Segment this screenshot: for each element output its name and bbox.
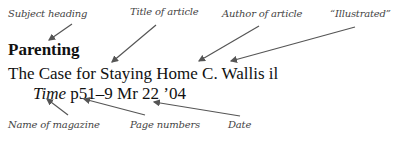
arrow-magazine-icon bbox=[47, 99, 68, 115]
arrow-title-icon bbox=[112, 25, 156, 62]
arrow-pages-icon bbox=[84, 99, 145, 115]
arrow-subject-icon bbox=[49, 24, 72, 40]
annotation-arrows bbox=[0, 0, 405, 141]
arrow-date-icon bbox=[154, 102, 240, 116]
